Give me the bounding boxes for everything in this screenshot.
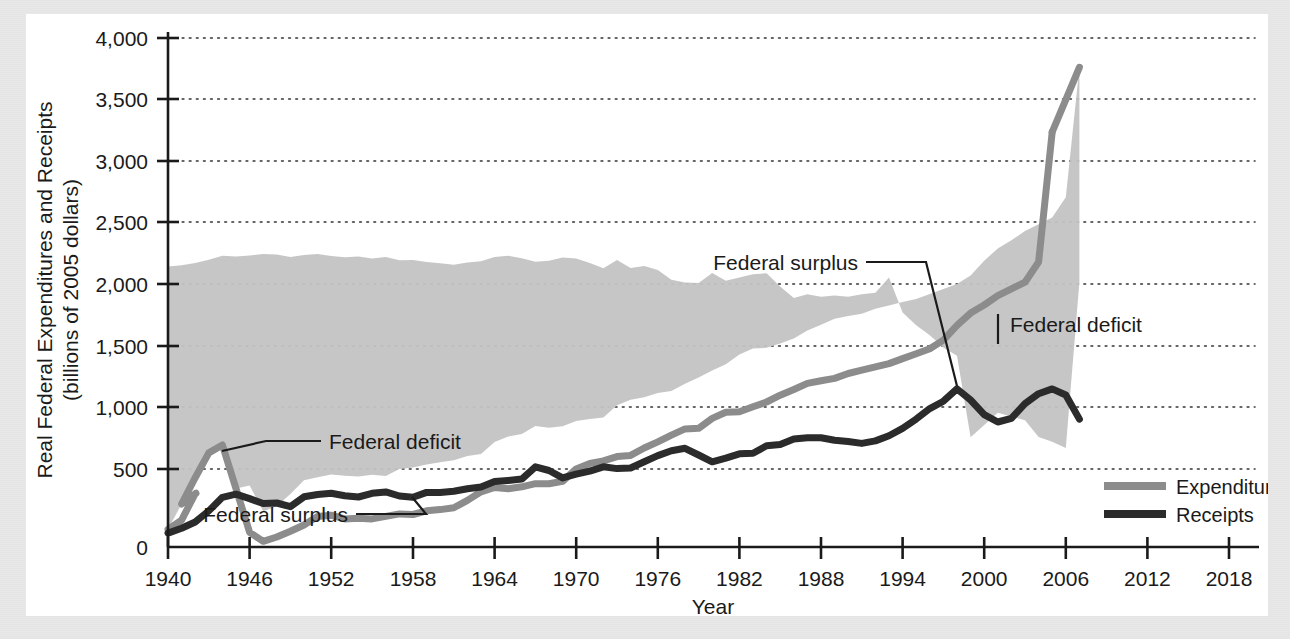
y-tick-label-2000: 2,000	[95, 273, 148, 296]
y-tick-label-4000: 4,000	[95, 27, 148, 50]
annotation-federal-deficit-right: Federal deficit	[1010, 313, 1142, 336]
x-axis-title: Year	[692, 595, 734, 616]
y-tick-label-500: 500	[113, 458, 148, 481]
y-tick-label-3000: 3,000	[95, 150, 148, 173]
y-tick-label-0: 0	[136, 536, 148, 559]
x-tick-label-2006: 2006	[1042, 567, 1089, 590]
x-tick-label-1982: 1982	[716, 567, 763, 590]
x-tick-label-1940: 1940	[145, 567, 192, 590]
figure-page: 4,000 3,500 3,000 2,500 2,000 1,500 1,00…	[0, 0, 1290, 639]
annotation-federal-surplus-right: Federal surplus	[713, 251, 858, 274]
legend-label-receipts: Receipts	[1176, 504, 1254, 526]
legend-label-expenditures: Expenditures	[1176, 476, 1268, 498]
y-tick-label-1500: 1,500	[95, 335, 148, 358]
x-tick-label-2018: 2018	[1206, 567, 1253, 590]
x-tick-label-1994: 1994	[879, 567, 926, 590]
x-tick-label-2012: 2012	[1124, 567, 1171, 590]
y-tick-label-1000: 1,000	[95, 396, 148, 419]
figure-card: 4,000 3,500 3,000 2,500 2,000 1,500 1,00…	[26, 14, 1268, 616]
x-tick-label-1946: 1946	[226, 567, 273, 590]
x-tick-label-1970: 1970	[553, 567, 600, 590]
x-tick-label-1964: 1964	[471, 567, 518, 590]
annotation-federal-surplus-left: Federal surplus	[203, 503, 348, 526]
x-tick-label-1958: 1958	[390, 567, 437, 590]
y-axis-title-line2: (billions of 2005 dollars)	[59, 179, 82, 401]
x-tick-label-1952: 1952	[308, 567, 355, 590]
y-tick-label-2500: 2,500	[95, 211, 148, 234]
y-tick-label-3500: 3,500	[95, 88, 148, 111]
federal-expenditures-receipts-chart: 4,000 3,500 3,000 2,500 2,000 1,500 1,00…	[26, 14, 1268, 616]
y-axis-title-line1: Real Federal Expenditures and Receipts	[33, 101, 56, 478]
x-tick-label-1976: 1976	[634, 567, 681, 590]
x-tick-label-1988: 1988	[798, 567, 845, 590]
x-tick-label-2000: 2000	[961, 567, 1008, 590]
annotation-federal-deficit-left: Federal deficit	[329, 430, 461, 453]
